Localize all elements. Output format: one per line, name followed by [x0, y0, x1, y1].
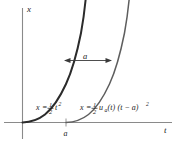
- eq2-binomial: (t − a): [118, 103, 139, 112]
- eq1-equals: =: [42, 103, 47, 112]
- figure-container: x t a a x = 1 2 t 2 x = 1 2 u a (t) (t −…: [0, 0, 180, 145]
- eq1-frac-denominator: 2: [49, 108, 53, 115]
- shift-arrow-annotation: [64, 58, 112, 63]
- tick-label-a: a: [64, 129, 68, 138]
- x-axis-label: x: [26, 4, 31, 14]
- arrow-head-left-icon: [64, 58, 71, 63]
- eq1-variable: t: [55, 103, 58, 112]
- eq2-equals: =: [86, 103, 91, 112]
- eq2-frac-denominator: 2: [93, 108, 97, 115]
- eq2-frac-numerator: 1: [93, 101, 96, 108]
- shift-arrow-label: a: [83, 51, 87, 61]
- eq2-exponent: 2: [146, 101, 149, 107]
- eq2-lhs: x: [79, 103, 84, 112]
- equation-label-unshifted: x = 1 2 t 2: [35, 101, 62, 116]
- eq2-step-argument: (t): [108, 103, 116, 112]
- t-axis-label: t: [164, 125, 167, 135]
- parabola-shift-diagram: x t a a x = 1 2 t 2 x = 1 2 u a (t) (t −…: [0, 0, 180, 145]
- eq1-exponent: 2: [59, 101, 62, 107]
- arrow-head-right-icon: [106, 58, 113, 63]
- eq1-frac-numerator: 1: [49, 101, 52, 108]
- eq2-step-function: u: [99, 103, 103, 112]
- eq1-lhs: x: [35, 103, 40, 112]
